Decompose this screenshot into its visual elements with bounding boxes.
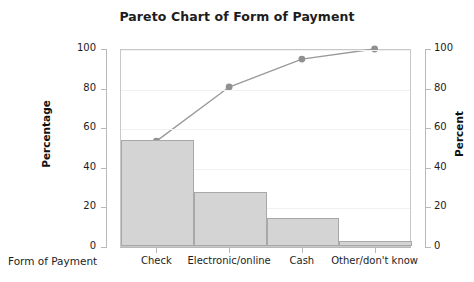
y-tick-label-right: 100 [434,42,464,53]
cumulative-marker [371,46,378,53]
y-tick-right [425,207,431,208]
x-axis-title: Form of Payment [8,255,97,267]
y-tick-left [101,247,107,248]
x-tick-label: Cash [290,255,315,266]
plot-area [120,49,411,247]
y-tick-left [101,168,107,169]
y-tick-label-left: 100 [62,42,96,53]
bar [121,140,194,246]
bar [339,241,412,246]
y-tick-label-right: 60 [434,121,464,132]
chart-title: Pareto Chart of Form of Payment [0,9,474,24]
x-tick-label: Check [141,255,172,266]
x-tick [302,248,303,253]
x-tick-label: Other/don't know [331,255,418,266]
y-tick-label-right: 80 [434,82,464,93]
y-tick-left [101,128,107,129]
y-tick-right [425,89,431,90]
gridline [121,50,410,51]
y-axis-right-title: Percent [453,79,465,189]
y-tick-right [425,128,431,129]
y-tick-label-left: 40 [62,161,96,172]
y-tick-label-left: 20 [62,200,96,211]
y-tick-label-right: 0 [434,240,464,251]
y-tick-left [101,89,107,90]
chart-canvas: Pareto Chart of Form of Payment Percenta… [0,0,474,282]
y-tick-label-left: 60 [62,121,96,132]
y-tick-label-right: 20 [434,200,464,211]
y-axis-left-title: Percentage [40,79,52,189]
y-tick-right [425,49,431,50]
y-tick-label-left: 0 [62,240,96,251]
gridline [121,129,410,130]
y-tick-left [101,49,107,50]
x-tick [229,248,230,253]
x-axis-line [120,247,411,248]
y-tick-left [101,207,107,208]
x-tick [375,248,376,253]
cumulative-line [156,49,374,141]
y-tick-right [425,247,431,248]
x-tick-label: Electronic/online [188,255,271,266]
x-tick [156,248,157,253]
y-tick-right [425,168,431,169]
y-tick-label-right: 40 [434,161,464,172]
y-axis-right-line [425,49,426,247]
gridline [121,90,410,91]
bar [194,192,267,246]
y-axis-left-line [106,49,107,247]
y-tick-label-left: 80 [62,82,96,93]
cumulative-marker [298,56,305,63]
bar [267,218,340,246]
